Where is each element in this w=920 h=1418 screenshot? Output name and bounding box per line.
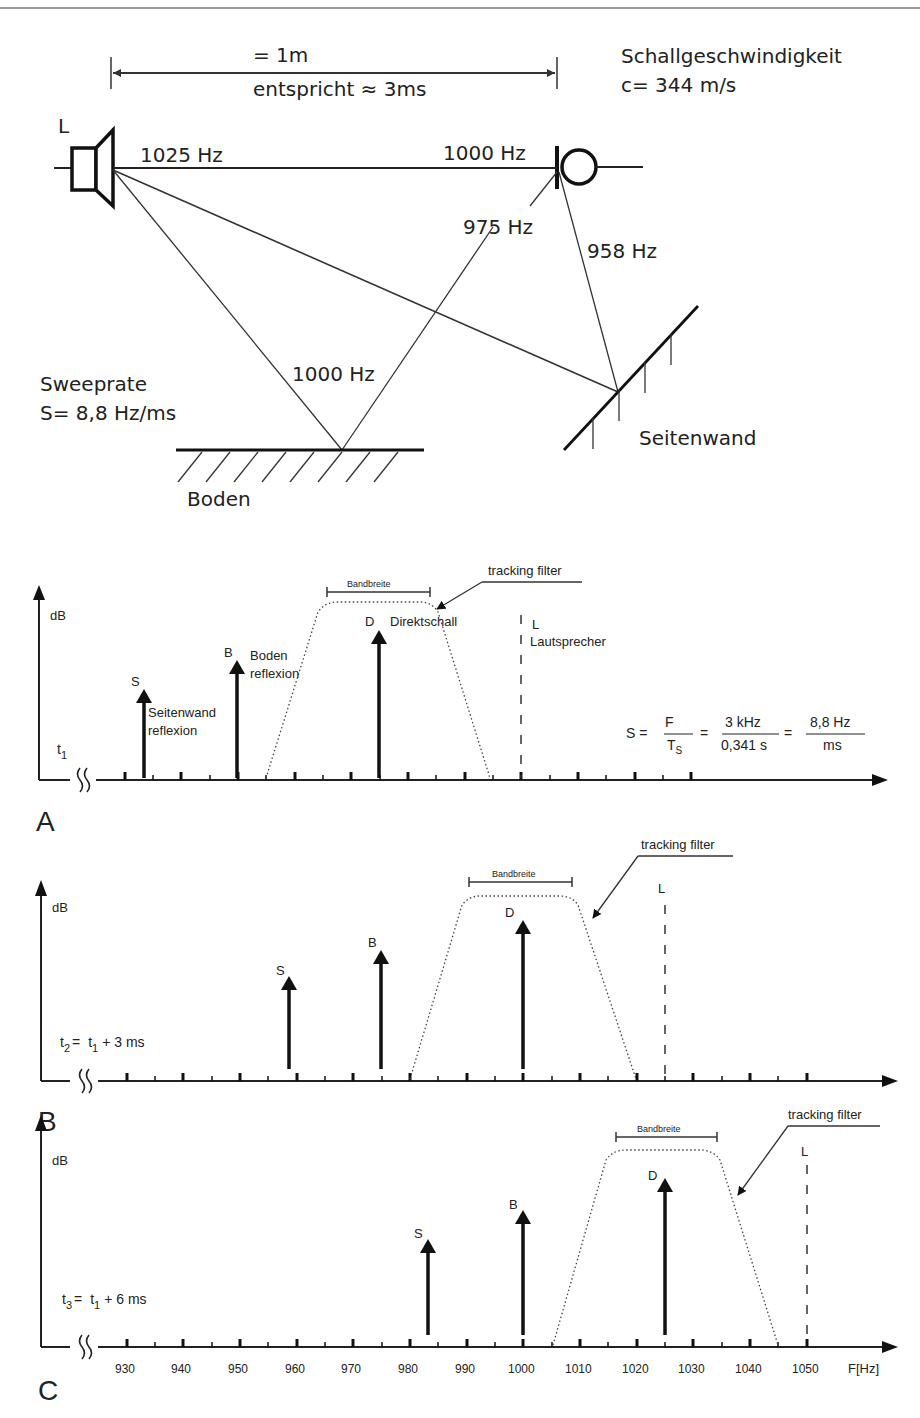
peak-s <box>420 1239 436 1335</box>
speaker-marker-label: L <box>532 617 539 632</box>
svg-text:0,341 s: 0,341 s <box>721 737 767 753</box>
axis-break-icon <box>80 1335 92 1359</box>
svg-text:940: 940 <box>171 1362 191 1376</box>
svg-text:960: 960 <box>285 1362 305 1376</box>
axis-break-icon <box>78 768 90 792</box>
freq-label-1000-floor: 1000 Hz <box>292 362 375 386</box>
freq-label-975: 975 Hz <box>463 215 533 239</box>
x-axis-tick-labels: 930 940 950 960 970 980 990 1000 1010 10… <box>115 1361 879 1376</box>
peak-s-desc-1: Seitenwand <box>148 705 216 720</box>
tracking-filter-label: tracking filter <box>488 563 562 578</box>
peak-s-label: S <box>414 1226 423 1241</box>
time-equivalent-label: entspricht ≈ 3ms <box>253 77 426 101</box>
peak-s <box>281 976 297 1069</box>
time-label: t1 <box>57 741 67 761</box>
peak-d-label: D <box>505 905 514 920</box>
svg-text:1050: 1050 <box>792 1362 819 1376</box>
svg-text:1000: 1000 <box>508 1362 535 1376</box>
peak-s-desc-2: reflexion <box>148 723 197 738</box>
spectrum-panel-a: dB Bandbreite tracking filter <box>33 563 888 837</box>
peak-d <box>371 630 387 778</box>
floor-surface <box>176 450 424 482</box>
spectrum-panel-b: dB Bandbreite tracking filter L <box>35 837 898 1137</box>
time-label: t2=t1+ 3 ms <box>60 1034 145 1054</box>
peak-b <box>229 660 245 778</box>
svg-text:1010: 1010 <box>565 1362 592 1376</box>
wall-reflection-incident <box>113 170 618 392</box>
panel-letter: A <box>36 806 55 837</box>
peak-b-desc-1: Boden <box>250 648 288 663</box>
bandwidth-label: Bandbreite <box>492 869 536 879</box>
panel-letter: C <box>38 1375 58 1406</box>
peak-b-label: B <box>224 645 233 660</box>
speed-of-sound-title: Schallgeschwindigkeit <box>621 44 842 68</box>
peak-s-label: S <box>131 674 140 689</box>
y-axis-arrow-icon <box>35 880 47 896</box>
svg-text:TS: TS <box>667 737 683 756</box>
peak-d-desc: Direktschall <box>390 614 457 629</box>
svg-text:=: = <box>784 725 792 741</box>
tracking-filter-pointer <box>593 856 638 918</box>
tracking-filter-label: tracking filter <box>788 1107 862 1122</box>
svg-text:970: 970 <box>341 1362 361 1376</box>
tracking-filter-label: tracking filter <box>641 837 715 852</box>
sweeprate-title: Sweeprate <box>40 372 147 396</box>
figure-canvas: = 1m entspricht ≈ 3ms Schallgeschwindigk… <box>0 0 920 1418</box>
y-axis-label: dB <box>52 1153 68 1168</box>
tracking-filter-pointer <box>437 582 482 609</box>
svg-text:1040: 1040 <box>735 1362 762 1376</box>
y-axis-label: dB <box>52 900 68 915</box>
x-axis-ticks <box>125 772 691 780</box>
x-axis-ticks <box>127 1339 807 1347</box>
time-label: t3=t1+ 6 ms <box>62 1291 147 1311</box>
bandwidth-label: Bandbreite <box>637 1124 681 1134</box>
peak-b-label: B <box>509 1197 518 1212</box>
svg-text:F: F <box>665 714 674 730</box>
x-axis-unit-label: F[Hz] <box>848 1361 879 1376</box>
svg-text:1030: 1030 <box>678 1362 705 1376</box>
speaker-marker-label: L <box>801 1144 808 1159</box>
microphone-icon <box>557 146 643 189</box>
peak-b-desc-2: reflexion <box>250 666 299 681</box>
svg-text:980: 980 <box>398 1362 418 1376</box>
wall-reflection-outgoing <box>559 172 618 392</box>
svg-text:=: = <box>700 725 708 741</box>
peak-d-label: D <box>648 1168 657 1183</box>
peak-s-label: S <box>276 963 285 978</box>
x-axis-arrow-icon <box>882 1341 898 1353</box>
svg-text:930: 930 <box>115 1362 135 1376</box>
wall-label: Seitenwand <box>639 426 756 450</box>
freq-label-958: 958 Hz <box>587 239 657 263</box>
sweeprate-value: S= 8,8 Hz/ms <box>40 401 176 425</box>
svg-text:1020: 1020 <box>622 1362 649 1376</box>
x-axis-arrow-icon <box>872 774 888 786</box>
svg-text:3 kHz: 3 kHz <box>725 714 761 730</box>
floor-reflection-outgoing-lower <box>342 227 493 450</box>
svg-text:950: 950 <box>228 1362 248 1376</box>
floor-label: Boden <box>187 487 251 511</box>
bandwidth-label: Bandbreite <box>347 579 391 589</box>
peak-d <box>657 1178 673 1335</box>
x-axis-ticks <box>127 1073 807 1081</box>
speed-of-sound-value: c= 344 m/s <box>621 73 736 97</box>
svg-text:S =: S = <box>626 725 647 741</box>
distance-label: = 1m <box>253 43 308 67</box>
x-axis-arrow-icon <box>882 1075 898 1087</box>
floor-reflection-outgoing-upper <box>530 172 557 206</box>
freq-label-1000-direct: 1000 Hz <box>443 141 526 165</box>
y-axis-label: dB <box>50 608 66 623</box>
peak-d-label: D <box>365 614 374 629</box>
geometry-diagram: = 1m entspricht ≈ 3ms Schallgeschwindigk… <box>40 43 842 511</box>
freq-label-1025: 1025 Hz <box>140 143 223 167</box>
peak-d <box>515 920 531 1069</box>
spectrum-panel-c: dB 930 940 950 960 970 980 990 <box>35 1107 898 1406</box>
peak-b <box>515 1210 531 1335</box>
svg-text:990: 990 <box>455 1362 475 1376</box>
axis-break-icon <box>80 1069 92 1093</box>
sweep-rate-formula: S = F TS = 3 kHz 0,341 s = 8,8 Hz ms <box>626 714 865 756</box>
svg-text:ms: ms <box>823 737 842 753</box>
svg-text:8,8 Hz: 8,8 Hz <box>810 714 850 730</box>
speaker-label: L <box>58 114 70 138</box>
speaker-marker-desc: Lautsprecher <box>530 634 607 649</box>
speaker-marker-label: L <box>658 881 665 896</box>
